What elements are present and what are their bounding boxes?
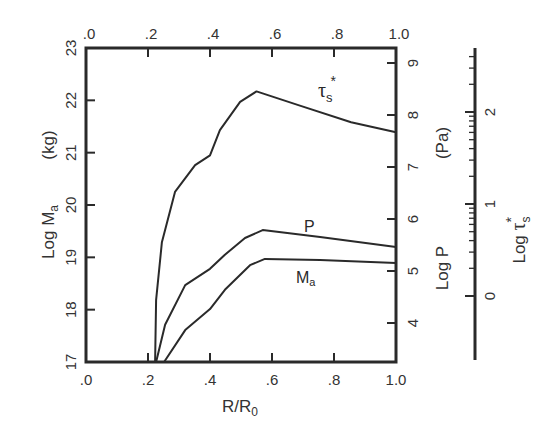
tau-tick-label: 0 <box>481 292 498 300</box>
svg-text:1: 1 <box>481 200 498 208</box>
y-right-tick-label: 8 <box>404 111 421 119</box>
tau-tick-label: 1 <box>481 200 498 208</box>
x-axis-top: .0.2.4.6.81.0 <box>83 25 410 57</box>
y-right-tick-label: 5 <box>404 267 421 275</box>
y-left-tick-label: 20 <box>62 197 79 214</box>
y-axis-right-log-p: 456789 <box>387 59 421 327</box>
svg-text:4: 4 <box>404 319 421 327</box>
tau-tick-label: 2 <box>481 108 498 116</box>
right-axis-title: Log P <box>433 246 452 290</box>
svg-text:Log P: Log P <box>433 246 452 290</box>
p-curve <box>156 230 396 362</box>
svg-text:18: 18 <box>62 301 79 318</box>
chart-canvas: .0.2.4.6.81.0 .0.2.4.6.81.0 171819202122… <box>0 0 554 436</box>
svg-text:6: 6 <box>404 215 421 223</box>
svg-text:Log Ma: Log Ma <box>39 205 61 259</box>
x-tick-label: .2 <box>142 371 155 388</box>
x-top-tick-label: .2 <box>145 25 158 42</box>
ma-curve <box>164 259 396 362</box>
svg-text:9: 9 <box>404 59 421 67</box>
y-right-tick-label: 7 <box>404 163 421 171</box>
y-axis-far-right-log-tau: 012 <box>465 48 498 360</box>
tau-curve-label: τs* <box>318 73 337 105</box>
x-tick-label: .4 <box>204 371 217 388</box>
ma-curve-label: Ma <box>296 269 316 288</box>
curves-group <box>155 91 396 362</box>
x-tick-label: 1.0 <box>386 371 407 388</box>
y-left-tick-label: 18 <box>62 301 79 318</box>
svg-text:20: 20 <box>62 197 79 214</box>
p-curve-label: P <box>304 218 315 235</box>
x-axis-bottom: .0.2.4.6.81.0 <box>80 353 407 388</box>
svg-text:7: 7 <box>404 163 421 171</box>
y-right-tick-label: 4 <box>404 319 421 327</box>
svg-text:(Pa): (Pa) <box>433 127 452 159</box>
svg-text:17: 17 <box>62 354 79 371</box>
x-top-tick-label: .0 <box>83 25 96 42</box>
y-axis-left-log-ma: 17181920212223 <box>62 40 95 371</box>
x-tick-label: .0 <box>80 371 93 388</box>
x-top-tick-label: .4 <box>207 25 220 42</box>
svg-text:5: 5 <box>404 267 421 275</box>
svg-text:Log τs*: Log τs* <box>503 216 533 263</box>
plot-frame <box>86 48 396 362</box>
svg-text:0: 0 <box>481 292 498 300</box>
left-axis-unit: (kg) <box>39 130 58 159</box>
x-tick-label: .6 <box>266 371 279 388</box>
left-axis-title: Log Ma <box>39 205 61 259</box>
x-tick-label: .8 <box>328 371 341 388</box>
x-axis-title: R/R0 <box>222 397 258 419</box>
svg-text:19: 19 <box>62 249 79 266</box>
tau-curve <box>155 91 396 362</box>
svg-text:22: 22 <box>62 92 79 109</box>
right-axis-unit: (Pa) <box>433 127 452 159</box>
y-left-tick-label: 17 <box>62 354 79 371</box>
y-left-tick-label: 19 <box>62 249 79 266</box>
y-left-tick-label: 23 <box>62 40 79 57</box>
x-top-tick-label: 1.0 <box>389 25 410 42</box>
svg-text:8: 8 <box>404 111 421 119</box>
far-right-axis-title: Log τs* <box>503 216 533 263</box>
svg-text:(kg): (kg) <box>39 130 58 159</box>
y-left-tick-label: 22 <box>62 92 79 109</box>
x-top-tick-label: .6 <box>269 25 282 42</box>
y-left-tick-label: 21 <box>62 144 79 161</box>
svg-text:2: 2 <box>481 108 498 116</box>
y-right-tick-label: 6 <box>404 215 421 223</box>
x-top-tick-label: .8 <box>331 25 344 42</box>
svg-text:21: 21 <box>62 144 79 161</box>
svg-text:23: 23 <box>62 40 79 57</box>
y-right-tick-label: 9 <box>404 59 421 67</box>
